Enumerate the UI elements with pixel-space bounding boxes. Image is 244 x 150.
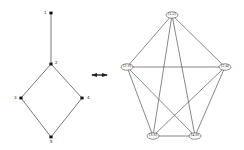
k5-edge-24-35 (153, 67, 225, 136)
k5-node-label: (2,3) (123, 65, 131, 69)
k5-node-label: (3,5) (149, 134, 157, 138)
hasse-node-label: 1 (44, 11, 47, 15)
k5-edge-23-45 (127, 67, 195, 136)
hasse-node-1 (49, 12, 52, 15)
k5-edge-24-45 (195, 67, 225, 136)
k5-edge-12-45 (172, 15, 195, 136)
k5-edge-23-35 (127, 67, 153, 136)
hasse-node-5 (49, 136, 52, 139)
k5-edge-12-24 (172, 15, 225, 67)
hasse-node-label: 5 (50, 140, 53, 144)
hasse-edge-2-3 (21, 64, 51, 98)
k5-node-label: (4,5) (191, 134, 199, 138)
hasse-diagram-edges (21, 13, 82, 137)
hasse-node-label: 4 (87, 96, 90, 100)
hasse-node-label: 3 (14, 96, 17, 100)
hasse-edge-2-4 (51, 64, 82, 98)
complete-graph-nodes (121, 12, 231, 139)
complete-graph-edges (127, 15, 225, 136)
k5-node-label: (2,4) (221, 65, 229, 69)
hasse-node-4 (80, 97, 83, 100)
hasse-node-3 (19, 97, 22, 100)
hasse-diagram-nodes (19, 12, 83, 139)
hasse-edge-4-5 (51, 98, 82, 137)
hasse-node-label: 2 (55, 61, 58, 65)
hasse-edge-3-5 (21, 98, 51, 137)
k5-node-label: (1,2) (168, 13, 176, 17)
hasse-node-2 (49, 63, 52, 66)
diagram-canvas (0, 0, 244, 150)
